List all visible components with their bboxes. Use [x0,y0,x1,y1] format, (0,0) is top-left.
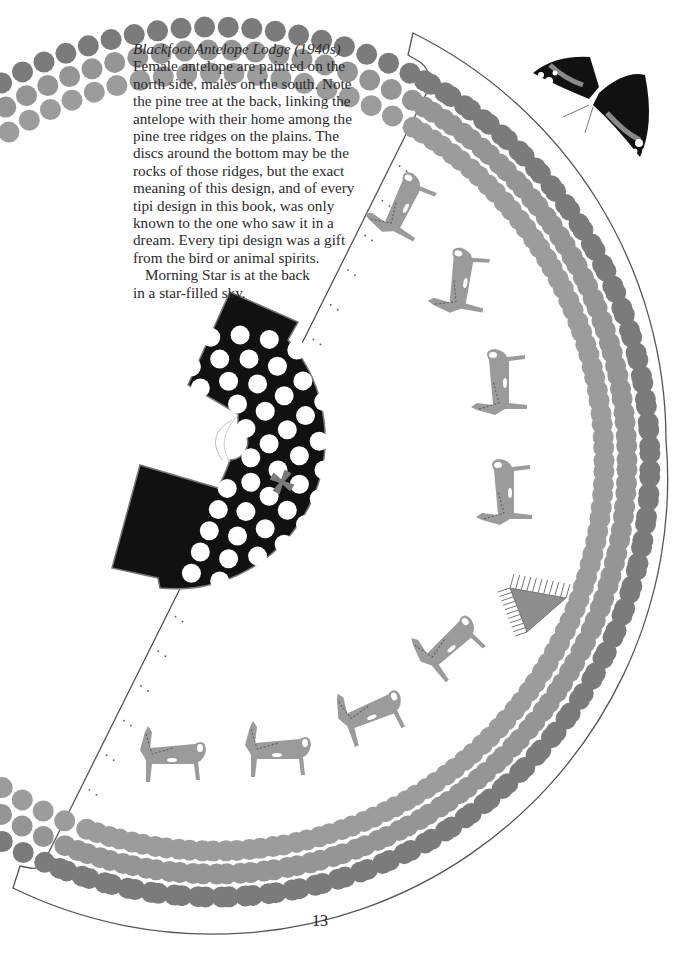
caption-body: Female antelope are painted on the north… [133,57,433,266]
caption-paragraph-2: Morning Star is at the back in a star-fi… [133,266,433,301]
caption-title: Blackfoot Antelope Lodge (1940s) [133,40,433,57]
caption: Blackfoot Antelope Lodge (1940s) Female … [133,40,433,301]
page-number: 13 [312,912,328,930]
